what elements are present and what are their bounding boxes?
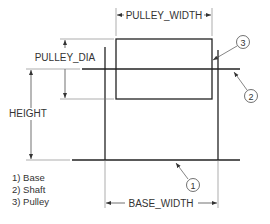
callout-1-number: 1 xyxy=(190,181,195,191)
legend-item-pulley: 3) Pulley xyxy=(12,196,49,208)
callout-1-leader xyxy=(176,163,188,179)
pulley-dia-label: PULLEY_DIA xyxy=(35,52,96,63)
callout-2-number: 2 xyxy=(248,92,253,102)
base-width-label: BASE_WIDTH xyxy=(128,198,193,209)
callout-3-leader xyxy=(213,46,237,60)
parts-legend: 1) Base 2) Shaft 3) Pulley xyxy=(12,172,49,208)
pulley-width-label: PULLEY_WIDTH xyxy=(126,10,203,21)
callout-3-number: 3 xyxy=(240,38,245,48)
legend-item-base: 1) Base xyxy=(12,172,49,184)
legend-item-shaft: 2) Shaft xyxy=(12,184,49,196)
height-label: HEIGHT xyxy=(9,108,47,119)
callout-2-leader xyxy=(234,72,247,90)
